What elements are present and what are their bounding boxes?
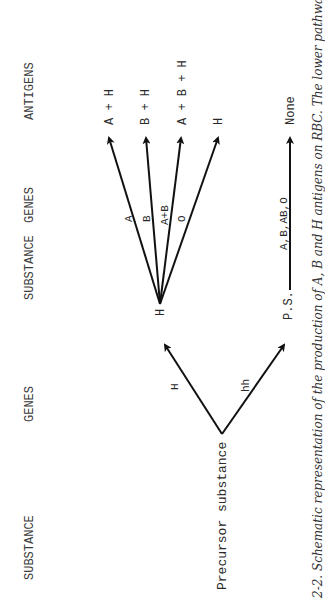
precursor-substance-label: Precursor substance	[215, 442, 230, 590]
header-genes-2: GENES	[23, 187, 37, 223]
gene-label-ps: A,B,AB,O	[278, 197, 290, 250]
h-substance-label: H	[154, 309, 168, 316]
gene-label-hh: hh	[240, 379, 252, 392]
header-antigens: ANTIGENS	[23, 62, 37, 120]
antigen-b-h: B + H	[139, 89, 153, 125]
antigen-a-b-h: A + B + H	[176, 60, 190, 125]
header-substance-1: SUBSTANCE	[23, 515, 37, 580]
header-substance-2: SUBSTANCE	[23, 235, 37, 300]
abo-pathway-diagram: SUBSTANCE GENES SUBSTANCE GENES ANTIGENS…	[0, 0, 325, 598]
figure-caption: 2-2. Schematic representation of the pro…	[311, 0, 325, 598]
gene-label-o: O	[176, 215, 188, 222]
gene-label-ab: A+B	[159, 205, 171, 225]
header-genes-1: GENES	[23, 386, 37, 422]
gene-label-b: B	[141, 215, 153, 222]
gene-label-h: H	[169, 383, 181, 390]
antigen-h: H	[212, 118, 226, 125]
antigen-a-h: A + H	[103, 89, 117, 125]
arrow-precursor-to-ps	[222, 345, 284, 434]
ps-label: P.S.	[282, 291, 296, 320]
gene-label-a: A	[123, 215, 135, 222]
antigen-none: None	[284, 96, 298, 125]
